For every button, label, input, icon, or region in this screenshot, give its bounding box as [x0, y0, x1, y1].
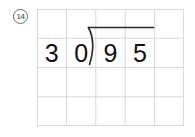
division-hook-icon: [89, 28, 93, 65]
circled-number-icon: 14: [13, 9, 28, 24]
problem-number-label: 14: [17, 13, 25, 21]
division-expression: 3 0 9 5: [37, 9, 184, 126]
division-bracket-icon: [37, 9, 184, 126]
worksheet-problem: 14 3 0: [0, 0, 195, 137]
answer-grid: 3 0 9 5: [37, 9, 184, 126]
